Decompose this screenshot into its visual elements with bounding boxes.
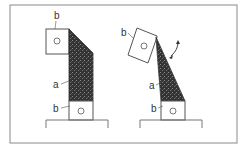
right-figure: b a b — [121, 27, 202, 128]
label-a: a — [149, 80, 155, 91]
bottom-block-b — [69, 101, 93, 120]
label-b-bottom: b — [151, 103, 157, 114]
label-b-top: b — [121, 27, 127, 38]
top-block-b-rotated — [128, 28, 157, 63]
rotation-arrow-icon — [171, 42, 178, 56]
top-block-b — [46, 29, 69, 54]
left-figure: b a b — [46, 10, 108, 128]
base — [140, 120, 202, 128]
middle-block-a — [69, 29, 93, 101]
frame — [10, 5, 237, 143]
middle-block-a — [156, 37, 185, 101]
diagram: b a b b a b — [0, 0, 241, 151]
bottom-block-b — [161, 101, 185, 120]
label-b-bottom: b — [53, 103, 59, 114]
label-b-top: b — [54, 10, 60, 21]
label-a: a — [53, 79, 59, 90]
base — [46, 120, 108, 128]
